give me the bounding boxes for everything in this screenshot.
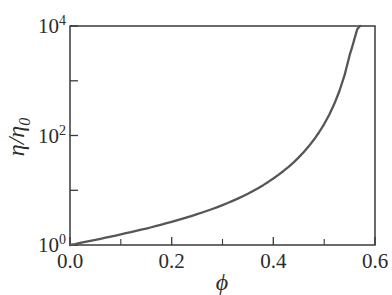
x-axis-label: ϕ (216, 269, 228, 295)
y-axis-ticks (70, 26, 78, 245)
y-tick-mantissa-1e2: 10 (38, 124, 59, 148)
y-tick-mantissa-1e0: 10 (38, 233, 59, 257)
y-tick-labels: 100 102 104 (38, 13, 66, 257)
chart-svg: 0.0 0.2 0.4 0.6 100 102 104 η/η0 ϕ (0, 0, 392, 295)
x-axis-ticks (70, 237, 375, 245)
y-axis-label-numerator: η/η (3, 126, 29, 156)
x-tick-label-6: 0.6 (362, 249, 388, 273)
x-tick-label-0: 0.0 (57, 249, 83, 273)
plot-frame (70, 26, 375, 245)
y-axis-label-subscript: 0 (16, 118, 33, 126)
y-tick-mantissa-1e4: 10 (38, 14, 59, 38)
x-tick-label-4: 0.4 (260, 249, 287, 273)
y-tick-exponent-1e0: 0 (59, 232, 66, 247)
viscosity-chart-figure: 0.0 0.2 0.4 0.6 100 102 104 η/η0 ϕ (0, 0, 392, 295)
y-tick-exponent-1e4: 4 (59, 13, 66, 28)
x-tick-label-2: 0.2 (159, 249, 185, 273)
y-tick-label-1e2: 102 (38, 123, 66, 148)
viscosity-curve (70, 26, 361, 245)
y-tick-exponent-1e2: 2 (59, 123, 66, 138)
y-tick-label-1e4: 104 (38, 13, 66, 38)
y-axis-label: η/η0 (3, 118, 33, 156)
